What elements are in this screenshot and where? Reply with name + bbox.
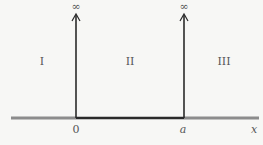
- region-3-label: III: [217, 56, 230, 67]
- region-1-label: I: [40, 56, 44, 67]
- origin-label: 0: [73, 124, 80, 135]
- region-2-label: II: [126, 56, 135, 67]
- infinity-right-label: ∞: [179, 1, 188, 12]
- well-diagram: [0, 0, 263, 145]
- wall-position-label: a: [180, 124, 187, 135]
- infinity-left-label: ∞: [71, 1, 80, 12]
- axis-label: x: [251, 124, 257, 135]
